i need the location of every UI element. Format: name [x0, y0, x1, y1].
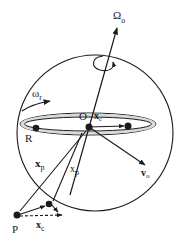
- omega-r-label: ωr: [32, 87, 42, 102]
- xp-right-label: xp: [70, 163, 79, 177]
- rotation-curl-icon: [94, 56, 114, 71]
- xc-top-label: xc: [94, 110, 102, 123]
- xp-left-label: xp: [35, 157, 45, 172]
- point-ring-right: [125, 123, 132, 130]
- O-label: O: [79, 110, 87, 122]
- point-P: [14, 212, 21, 219]
- P-label: P: [12, 223, 18, 235]
- point-O: [86, 124, 93, 131]
- sphere-rotation-diagram: ωr Ωo xc vo xp xp xc O R P: [0, 0, 181, 242]
- vo-label: vo: [141, 167, 150, 180]
- xc-bottom-label: xc: [36, 219, 45, 233]
- point-R: [33, 125, 40, 132]
- R-label: R: [25, 132, 33, 144]
- point-particle: [46, 201, 53, 208]
- p-to-particle-arrow: [18, 206, 45, 215]
- xc-top-arrow: [89, 126, 124, 127]
- xc-bottom-dashed-arrow: [20, 215, 62, 216]
- omega-r-arrow: [22, 101, 50, 111]
- omega-o-label: Ωo: [113, 9, 125, 25]
